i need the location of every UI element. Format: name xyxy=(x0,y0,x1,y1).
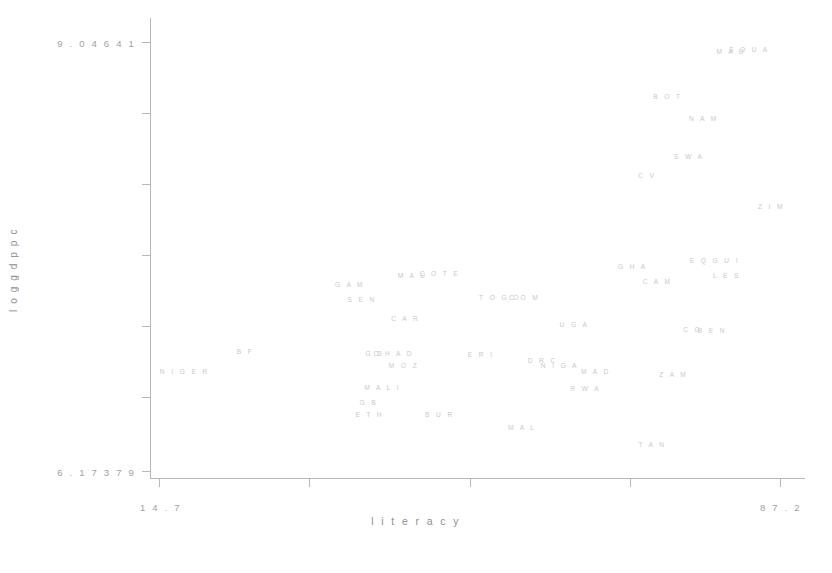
x-axis-max-label: 8 7 . 2 xyxy=(760,502,802,513)
x-axis-tick xyxy=(309,478,310,487)
data-point-label: N I G E R xyxy=(160,368,210,375)
y-axis-tick xyxy=(142,397,151,398)
data-point-label: B F xyxy=(237,349,254,356)
x-axis-title: l i t e r a c y xyxy=(0,515,832,527)
data-point-label: Z I M xyxy=(758,204,785,211)
data-point-label: N I G A xyxy=(541,362,579,369)
y-axis-title: l o g g d p p c xyxy=(8,228,48,312)
x-axis-tick xyxy=(470,478,471,487)
x-axis-line xyxy=(150,478,805,479)
data-point-label: M A D xyxy=(581,368,611,375)
x-axis-min-label: 1 4 . 7 xyxy=(140,502,182,513)
data-point-label: M A L xyxy=(508,425,537,432)
data-point-label: C A M xyxy=(643,279,673,286)
data-point-label: G B xyxy=(360,400,379,407)
data-point-label: M O Z xyxy=(389,362,419,369)
data-point-label: L E S xyxy=(713,273,741,280)
data-point-label: Z A M xyxy=(659,371,688,378)
y-axis-tick xyxy=(142,471,151,472)
x-axis-tick xyxy=(630,478,631,487)
y-axis-min-label: 6 . 1 7 3 7 9 xyxy=(57,467,136,478)
data-point-label: U G A xyxy=(560,322,590,329)
data-point-label: B O T xyxy=(653,93,682,100)
y-axis-tick xyxy=(142,42,151,43)
data-point-label: E R I xyxy=(468,352,495,359)
data-point-label: C A R xyxy=(391,316,420,323)
data-point-label: E Q G U I xyxy=(690,258,740,265)
data-point-label: B U R xyxy=(425,412,455,419)
data-point-label: B E N xyxy=(698,328,727,335)
y-axis-tick xyxy=(142,326,151,327)
data-point-label: C O M xyxy=(509,295,540,302)
data-point-label: S O U A xyxy=(729,47,770,54)
y-axis-tick xyxy=(142,255,151,256)
scatter-plot-canvas: 9 . 0 4 6 4 1 6 . 1 7 3 7 9 1 4 . 7 8 7 … xyxy=(0,0,832,573)
data-point-label: G A M xyxy=(335,282,365,289)
data-point-label: E T H xyxy=(355,412,384,419)
y-axis-max-label: 9 . 0 4 6 4 1 xyxy=(57,38,136,49)
y-axis-line xyxy=(150,18,151,478)
y-axis-tick xyxy=(142,184,151,185)
x-axis-tick xyxy=(159,478,160,487)
x-axis-tick xyxy=(780,478,781,487)
data-point-label: M A L I xyxy=(364,385,401,392)
data-point-label: R W A xyxy=(570,386,601,393)
y-axis-tick xyxy=(142,113,151,114)
data-point-label: S W A xyxy=(674,153,704,160)
data-point-label: C O T E xyxy=(420,271,460,278)
data-point-label: C H A D xyxy=(374,350,414,357)
data-point-label: S E N xyxy=(347,297,376,304)
data-point-label: N A M xyxy=(689,116,719,123)
data-point-label: C V xyxy=(638,173,656,180)
data-point-label: T A N xyxy=(638,441,666,448)
data-point-label: G H A xyxy=(618,264,648,271)
